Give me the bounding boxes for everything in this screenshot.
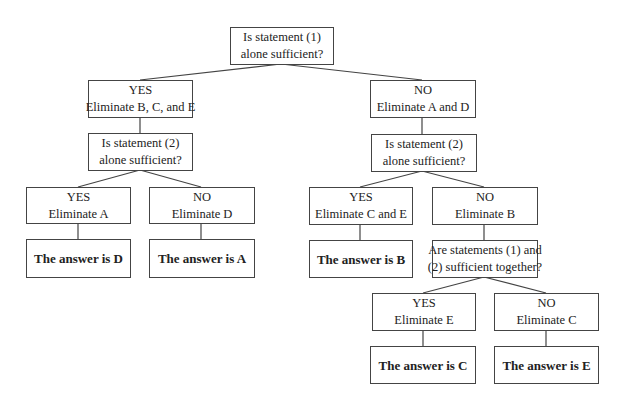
node-no-eliminate-c: NO Eliminate C: [494, 293, 599, 331]
node-q3-together: Are statements (1) and (2) sufficient to…: [432, 240, 538, 278]
node-text: (2) sufficient together?: [428, 259, 542, 276]
node-yes-eliminate-a: YES Eliminate A: [26, 187, 131, 224]
node-answer-a: The answer is A: [149, 239, 255, 278]
node-yes-eliminate-ce: YES Eliminate C and E: [309, 187, 413, 225]
node-answer-b: The answer is B: [309, 240, 413, 278]
node-answer-c: The answer is C: [370, 346, 476, 384]
node-text: Are statements (1) and: [428, 242, 542, 259]
node-text: Eliminate B: [455, 206, 515, 223]
node-text: The answer is A: [158, 250, 246, 267]
node-text: Is statement (1): [243, 29, 321, 46]
node-text: The answer is B: [317, 251, 405, 268]
node-text: Is statement (2): [385, 136, 463, 153]
node-text: NO: [537, 295, 555, 312]
edge-q3-noc: [484, 277, 546, 293]
node-text: Eliminate C and E: [315, 206, 407, 223]
node-text: The answer is D: [34, 250, 123, 267]
node-text: Eliminate A and D: [377, 99, 470, 116]
node-text: The answer is E: [502, 357, 590, 374]
node-answer-d: The answer is D: [26, 239, 131, 278]
node-yes-eliminate-e: YES Eliminate E: [372, 293, 476, 331]
node-text: YES: [67, 189, 91, 206]
node-text: Eliminate A: [48, 206, 108, 223]
node-no-eliminate-d: NO Eliminate D: [149, 187, 255, 224]
node-root-question: Is statement (1) alone sufficient?: [230, 27, 334, 65]
node-text: Eliminate B, C, and E: [86, 99, 196, 116]
edge-q2left-yesa: [78, 170, 140, 187]
node-no-eliminate-ad: NO Eliminate A and D: [370, 80, 476, 118]
edge-q2left-nod: [140, 170, 201, 187]
node-text: The answer is C: [379, 357, 468, 374]
node-text: Eliminate E: [394, 312, 453, 329]
edge-q2right-nob: [422, 171, 484, 187]
edge-q2right-yesce: [360, 171, 422, 187]
edge-q3-yese: [423, 277, 484, 293]
edge-root-no1: [281, 64, 422, 80]
node-text: YES: [129, 82, 153, 99]
node-text: alone sufficient?: [383, 153, 466, 170]
node-text: Is statement (2): [102, 135, 180, 152]
node-text: Eliminate D: [172, 206, 233, 223]
node-text: YES: [412, 295, 436, 312]
node-q2-left: Is statement (2) alone sufficient?: [88, 133, 193, 171]
node-text: NO: [476, 189, 494, 206]
node-no-eliminate-b: NO Eliminate B: [432, 187, 538, 225]
node-text: NO: [414, 82, 432, 99]
node-text: alone sufficient?: [99, 152, 182, 169]
node-text: NO: [193, 189, 211, 206]
node-text: alone sufficient?: [241, 46, 324, 63]
edge-root-yes1: [140, 64, 281, 80]
node-answer-e: The answer is E: [494, 346, 599, 384]
node-yes-eliminate-bce: YES Eliminate B, C, and E: [88, 80, 193, 118]
node-text: Eliminate C: [516, 312, 576, 329]
node-q2-right: Is statement (2) alone sufficient?: [371, 134, 477, 172]
node-text: YES: [349, 189, 373, 206]
